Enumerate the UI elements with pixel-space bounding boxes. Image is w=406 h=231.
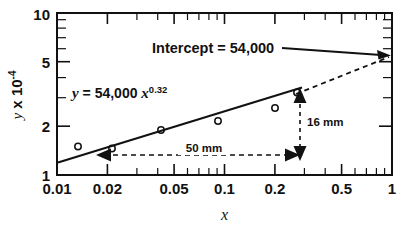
y-tick-label: 5 [42, 54, 50, 71]
run-label: 50 mm [186, 142, 222, 154]
x-tick-label: 0.5 [331, 180, 352, 197]
rise-label: 16 mm [307, 116, 343, 128]
x-tick-labels: 0.01 0.02 0.05 0.1 0.2 0.5 1 [42, 180, 396, 197]
x-tick-label: 0.2 [264, 180, 285, 197]
y-axis-title-mult: x 10 [8, 79, 25, 112]
x-tick-label: 0.02 [93, 180, 122, 197]
y-axis-title-var: y [9, 112, 25, 121]
intercept-label: Intercept = 54,000 [152, 40, 274, 56]
x-tick-label: 0.05 [159, 180, 188, 197]
x-axis-title: x [220, 206, 228, 223]
y-axis-title: y x 10-4 [7, 70, 25, 121]
equation-eq: = 54,000 [79, 85, 142, 101]
y-axis-title-exp: -4 [7, 70, 18, 79]
y-tick-label: 1 [42, 167, 50, 184]
svg-text:y x 10-4: y x 10-4 [7, 70, 25, 121]
y-tick-labels: 1 2 5 10 [33, 6, 50, 184]
equation-lhs: y [70, 85, 79, 101]
x-tick-label: 1 [388, 180, 396, 197]
equation-exponent: 0.32 [149, 84, 168, 95]
y-tick-label: 10 [33, 6, 50, 23]
figure-container: 0.01 0.02 0.05 0.1 0.2 0.5 1 1 2 5 10 x … [0, 0, 406, 231]
x-tick-label: 0.1 [214, 180, 235, 197]
log-log-scatter-chart: 0.01 0.02 0.05 0.1 0.2 0.5 1 1 2 5 10 x … [0, 0, 406, 231]
y-tick-label: 2 [42, 118, 50, 135]
